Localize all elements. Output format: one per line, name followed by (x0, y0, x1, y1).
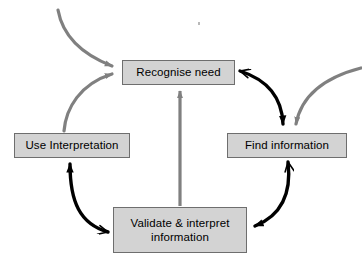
node-use-interpretation-label: Use Interpretation (25, 139, 118, 152)
arrow-find-to-validate (255, 162, 289, 226)
node-recognise-need-label: Recognise need (136, 66, 221, 79)
arrow-recognise-to-find (240, 71, 283, 124)
arrow-external-to-recognise (58, 10, 112, 66)
node-validate-interpret-label: Validate & interpret information (131, 216, 230, 244)
arrow-validate-to-use-interpretation (70, 164, 108, 232)
arrow-external-to-find (296, 68, 361, 124)
node-use-interpretation[interactable]: Use Interpretation (14, 133, 130, 158)
diagram-canvas: Recognise need Use Interpretation Find i… (0, 0, 362, 262)
arrow-use-interpretation-to-recognise (64, 74, 112, 131)
node-find-information[interactable]: Find information (227, 133, 347, 158)
node-validate-interpret[interactable]: Validate & interpret information (113, 207, 247, 253)
node-recognise-need[interactable]: Recognise need (122, 60, 235, 85)
scan-artifact-speck (198, 22, 200, 25)
node-find-information-label: Find information (245, 139, 329, 152)
